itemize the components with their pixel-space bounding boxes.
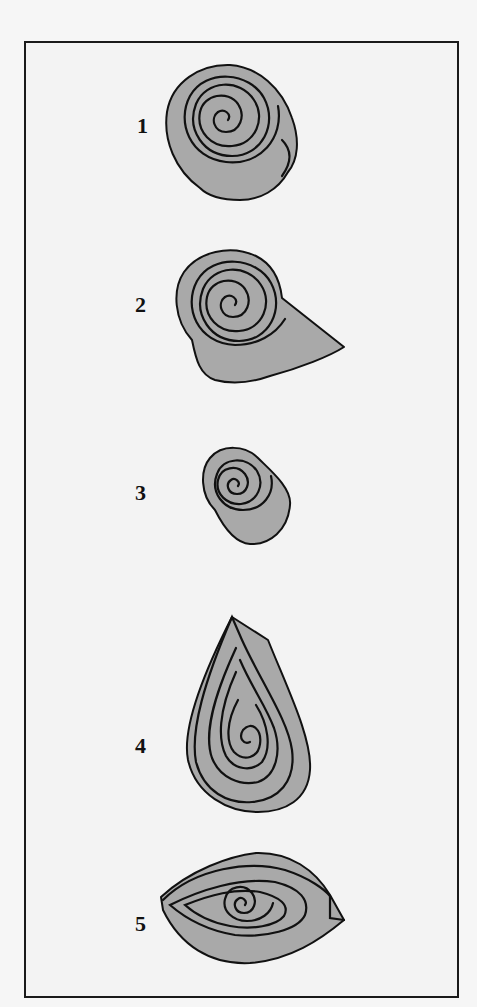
eye-shape-5 — [161, 853, 344, 963]
quilling-shapes — [0, 0, 477, 1007]
coil-shape-2 — [176, 250, 344, 382]
teardrop-shape-4 — [187, 617, 310, 812]
coil-shape-1 — [166, 65, 297, 200]
coil-shape-3 — [203, 448, 290, 544]
